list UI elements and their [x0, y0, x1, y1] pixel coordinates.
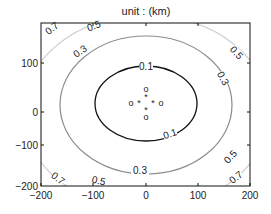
contour-label-0.3: 0.3: [215, 70, 231, 88]
contour-label-0.1: 0.1: [139, 61, 153, 72]
y-axis-labels: −200 −100 0 100: [15, 58, 38, 192]
contour-0.1: [95, 66, 197, 141]
contour-label-0.3: 0.3: [133, 165, 147, 176]
y-tick-label: −200: [15, 181, 38, 192]
marker-circle: o: [143, 112, 148, 122]
contour-label-0.5: 0.5: [222, 147, 240, 165]
x-tick-label: −100: [82, 190, 105, 201]
marker-circle: o: [158, 98, 163, 108]
marker-star: *: [151, 98, 155, 108]
marker-star: *: [144, 92, 148, 102]
y-tick-label: 0: [32, 107, 38, 118]
x-tick-label: 100: [190, 190, 207, 201]
contour-label-0.3: 0.3: [71, 42, 89, 59]
x-tick-label: 200: [242, 190, 259, 201]
marker-star: *: [137, 98, 141, 108]
contour-label-0.7: 0.7: [43, 19, 61, 36]
markers: o * o * * o * o: [128, 84, 163, 122]
contour-chart: unit : (km) 0.1 0.1 0.3 0.3 0.3 0.5 0.5 …: [0, 0, 271, 214]
x-tick-label: 0: [143, 190, 149, 201]
y-tick-label: −100: [15, 140, 38, 151]
contour-label-0.5: 0.5: [85, 18, 102, 33]
marker-circle: o: [128, 98, 133, 108]
contour-label-0.5: 0.5: [228, 44, 246, 62]
contour-labels: 0.1 0.1 0.3 0.3 0.3 0.5 0.5 0.5 0.5 0.7 …: [43, 18, 246, 187]
contour-label-0.1: 0.1: [162, 126, 179, 141]
chart-title: unit : (km): [122, 5, 171, 17]
x-axis-labels: −200 −100 0 100 200: [30, 190, 259, 201]
y-tick-label: 100: [21, 58, 38, 69]
